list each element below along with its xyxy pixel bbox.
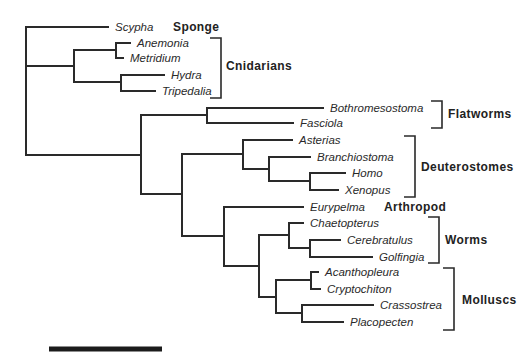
node-hydra-tripedalia [74, 75, 164, 91]
taxon-label: Hydra [171, 69, 202, 81]
group-label-molluscs: Molluscs [462, 293, 517, 307]
taxon-label: Tripedalia [162, 85, 212, 97]
taxon-label: Fasciola [300, 117, 343, 129]
node-cnidarians [26, 50, 74, 82]
node-homo-xenopus [269, 173, 345, 190]
node-bilateria [26, 115, 141, 194]
bracket-worms [428, 217, 439, 263]
taxon-label: Acanthopleura [324, 266, 399, 278]
node-protostomes [182, 207, 303, 266]
taxon-label: Metridium [130, 52, 181, 64]
node-deut-proto [141, 154, 182, 236]
group-label-cnidarians: Cnidarians [226, 59, 292, 73]
taxon-label: Eurypelma [310, 201, 365, 213]
node-chordates [243, 157, 310, 181]
scale-bar [49, 347, 162, 352]
taxon-label: Placopecten [350, 316, 413, 328]
node-worms [259, 223, 303, 248]
taxon-label: Branchiostoma [317, 151, 394, 163]
taxon-label: Cerebratulus [347, 234, 413, 246]
bracket-deuterostomes [404, 136, 415, 197]
bracket-molluscs [443, 268, 454, 330]
taxon-label: Chaetopterus [310, 217, 379, 229]
taxon-label: Golfingia [379, 251, 424, 263]
taxon-label: Anemonia [136, 37, 189, 49]
taxon-label: Crassostrea [380, 299, 442, 311]
group-label-sponge: Sponge [173, 20, 219, 34]
node-molluscs [259, 280, 276, 313]
phylogenetic-tree: Scypha Anemonia Metridium Hydra Tripedal… [0, 0, 532, 355]
taxon-label: Scypha [115, 21, 153, 33]
group-label-arthropod: Arthropod [384, 200, 446, 214]
node-anemonia-metridium [74, 43, 130, 58]
node-worms-molluscs [224, 235, 259, 297]
node-chitons [276, 272, 320, 289]
taxon-label: Asterias [298, 134, 341, 146]
taxon-label: Homo [352, 167, 383, 179]
group-label-deuterostomes: Deuterostomes [421, 160, 514, 174]
taxon-label: Cryptochiton [327, 283, 392, 295]
bracket-flatworms [431, 101, 442, 128]
taxon-label: Xenopus [344, 184, 391, 196]
taxon-label: Bothromesostoma [330, 102, 423, 114]
group-label-worms: Worms [445, 233, 487, 247]
node-flatworms [141, 108, 323, 123]
node-deuterostomes [182, 140, 292, 169]
group-label-flatworms: Flatworms [448, 107, 512, 121]
